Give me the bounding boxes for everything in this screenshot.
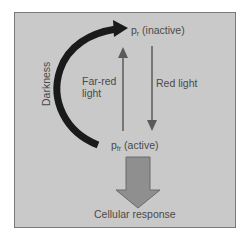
diagram-arrows bbox=[0, 0, 247, 241]
cellular-response-label: Cellular response bbox=[94, 208, 176, 220]
pfr-active-label: pfr (active) bbox=[111, 139, 158, 155]
pr-inactive-label: pr (inactive) bbox=[131, 24, 185, 40]
response-block-arrow bbox=[116, 157, 160, 208]
pfr-state: (active) bbox=[124, 139, 158, 151]
red-light-label: Red light bbox=[156, 77, 197, 89]
far-red-line2: light bbox=[82, 87, 122, 99]
far-red-line1: Far-red bbox=[82, 75, 122, 87]
far-red-light-label: Far-red light bbox=[82, 75, 122, 99]
pr-subscript: r bbox=[137, 30, 139, 37]
darkness-label: Darkness bbox=[40, 62, 52, 106]
pfr-subscript: fr bbox=[117, 145, 121, 152]
pr-state: (inactive) bbox=[142, 24, 185, 36]
